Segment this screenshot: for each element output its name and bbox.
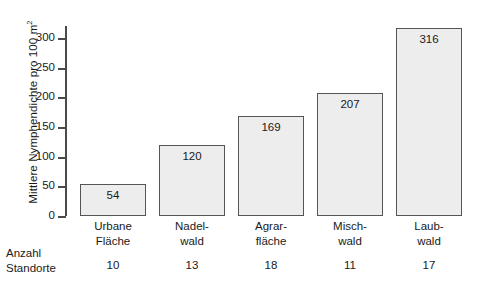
y-axis-tick-label: 0 [49, 209, 55, 221]
category-label-line: wald [317, 234, 383, 249]
category-label-line: wald [159, 234, 225, 249]
category-label-line: wald [396, 234, 462, 249]
y-axis-tick-label: 50 [42, 179, 55, 191]
y-axis-tick-label: 250 [36, 61, 55, 73]
category-label-line: Misch- [317, 219, 383, 234]
bar-value-label: 169 [239, 121, 303, 133]
bar-value-label: 316 [397, 33, 461, 45]
plot-area: 050100150200250300 54120169207316 [65, 20, 465, 216]
x-axis-category-label: Agrar-fläche [238, 219, 304, 248]
category-label-line: Agrar- [238, 219, 304, 234]
bar: 54 [80, 184, 146, 216]
y-axis-tick-mark: 0 [58, 216, 66, 218]
x-axis-category-label: Laub-wald [396, 219, 462, 248]
category-label-line: Fläche [80, 234, 146, 249]
x-axis-category-label: Misch-wald [317, 219, 383, 248]
bar-value-label: 207 [318, 98, 382, 110]
y-axis-tick-label: 100 [36, 150, 55, 162]
counts-row: 1013181117 [65, 259, 465, 281]
x-axis-category-label: UrbaneFläche [80, 219, 146, 248]
bar: 169 [238, 116, 304, 216]
bar-chart: Mittlere Nymphendichte pro 100 m2 050100… [0, 0, 480, 289]
y-axis-title-text: Mittlere Nymphendichte pro 100 m [27, 25, 39, 204]
x-axis-category-label: Nadel-wald [159, 219, 225, 248]
bar: 120 [159, 145, 225, 216]
bars-container: 54120169207316 [65, 20, 465, 216]
counts-row-header-line: Standorte [6, 261, 68, 276]
counts-row-header: AnzahlStandorte [6, 246, 68, 275]
category-label-line: Laub- [396, 219, 462, 234]
y-axis-tick-label: 300 [36, 31, 55, 43]
count-value: 13 [159, 259, 225, 271]
category-label-line: Urbane [80, 219, 146, 234]
y-axis-title-superscript: 2 [25, 20, 34, 24]
bar-value-label: 120 [160, 150, 224, 162]
counts-row-header-line: Anzahl [6, 246, 68, 261]
category-label-line: fläche [238, 234, 304, 249]
bar-value-label: 54 [81, 189, 145, 201]
count-value: 11 [317, 259, 383, 271]
x-axis-category-labels: UrbaneFlächeNadel-waldAgrar-flächeMisch-… [65, 219, 465, 259]
bar: 316 [396, 28, 462, 216]
y-axis-tick-label: 150 [36, 120, 55, 132]
count-value: 18 [238, 259, 304, 271]
count-value: 10 [80, 259, 146, 271]
bar: 207 [317, 93, 383, 216]
count-value: 17 [396, 259, 462, 271]
category-label-line: Nadel- [159, 219, 225, 234]
y-axis-tick-label: 200 [36, 90, 55, 102]
